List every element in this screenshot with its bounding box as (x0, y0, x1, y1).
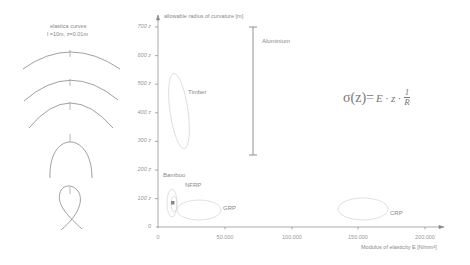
elastica-curve-4 (50, 142, 92, 178)
x-tick-0: 0 (138, 234, 178, 240)
y-tick-100: 100 z (121, 195, 151, 201)
x-axis-label: Modulus of elasticity E [N/mm²] (361, 244, 437, 250)
x-tick-150000: 150.000 (338, 234, 378, 240)
elastica-curves (23, 50, 120, 230)
y-tick-400: 400 z (121, 109, 151, 115)
x-axis-arrow (439, 226, 444, 229)
aluminium-range-bar (249, 27, 257, 155)
x-tick-200000: 200.000 (405, 234, 445, 240)
y-axis-arrow (157, 15, 160, 20)
crp-ellipse (338, 198, 388, 220)
elastica-curve-5 (59, 186, 82, 230)
formula: σ(z)= E · z · 1 R (343, 88, 410, 107)
elastica-curve-1 (23, 52, 120, 69)
grp-ellipse (177, 200, 221, 220)
chart-canvas (0, 0, 470, 265)
y-tick-0: 0 (121, 223, 151, 229)
y-tick-700: 700 z (121, 23, 151, 29)
label-grp: GRP (223, 205, 236, 211)
elastica-curve-3 (29, 103, 113, 128)
y-tick-500: 500 z (121, 80, 151, 86)
x-tick-50000: 50.000 (205, 234, 245, 240)
formula-lhs: σ(z)= (343, 90, 374, 106)
formula-rhs: E · z · (376, 92, 401, 104)
y-axis-label: allowable radius of curvature [m] (164, 13, 243, 19)
label-nfrp: NFRP (185, 182, 201, 188)
timber-ellipse (165, 72, 193, 150)
x-tick-100000: 100.000 (272, 234, 312, 240)
elastica-curve-2 (24, 80, 118, 101)
y-tick-300: 300 z (121, 137, 151, 143)
label-bamboo: Bamboo (163, 172, 185, 178)
nfrp-marker (171, 201, 175, 205)
formula-fraction: 1 R (404, 88, 411, 107)
label-timber: Timber (188, 89, 206, 95)
y-tick-200: 200 z (121, 166, 151, 172)
formula-denominator: R (404, 98, 410, 107)
axes (155, 15, 444, 230)
y-tick-600: 600 z (121, 52, 151, 58)
label-aluminium: Aluminium (262, 38, 290, 44)
label-crp: CRP (390, 210, 403, 216)
